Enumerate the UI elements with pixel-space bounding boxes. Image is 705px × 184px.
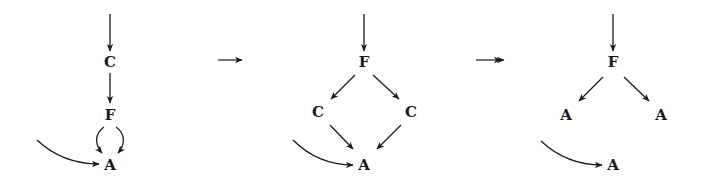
edge-f-to-c-left — [331, 75, 355, 99]
edge-f-to-a-left — [97, 127, 104, 153]
node-a: A — [103, 156, 116, 174]
node-a-right: A — [654, 106, 667, 124]
edge-c-left-to-a — [330, 125, 353, 149]
node-f: F — [608, 53, 619, 71]
external-edge-to-a — [293, 140, 353, 165]
reduction-diagram: C F A F C C A F A A A — [0, 0, 705, 184]
graph-1: C F A — [37, 14, 123, 174]
edge-f-to-a-right — [624, 77, 649, 101]
external-edge-to-a — [37, 140, 99, 164]
graph-3: F A A A — [541, 14, 667, 174]
node-a: A — [357, 156, 370, 174]
external-edge-to-a — [541, 141, 602, 165]
node-c: C — [104, 53, 116, 71]
edge-f-to-c-right — [373, 75, 399, 99]
node-f: F — [359, 53, 370, 71]
node-c-left: C — [312, 103, 324, 121]
node-f: F — [105, 106, 116, 124]
node-a-bottom: A — [606, 156, 619, 174]
edge-c-right-to-a — [377, 125, 401, 149]
edge-f-to-a-right — [116, 127, 123, 153]
node-c-right: C — [405, 103, 417, 121]
node-a-left: A — [559, 106, 572, 124]
multi-step-arrow — [476, 57, 504, 63]
graph-2: F C C A — [293, 14, 417, 174]
edge-f-to-a-left — [579, 77, 603, 101]
